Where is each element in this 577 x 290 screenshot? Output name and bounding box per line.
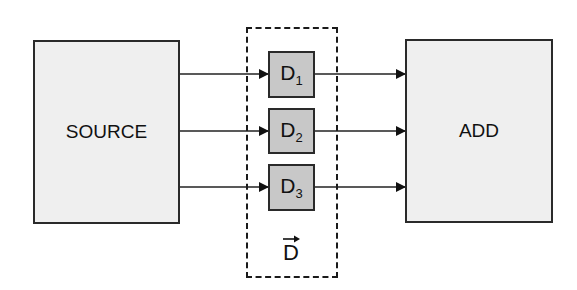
vector-d-label: D	[280, 240, 302, 266]
add-label: ADD	[459, 120, 499, 142]
delay-block-d1: D1	[268, 51, 315, 98]
delay-label: D2	[280, 118, 302, 145]
source-block: SOURCE	[33, 40, 180, 224]
delay-block-d3: D3	[268, 164, 315, 211]
delay-label: D1	[280, 61, 302, 88]
vector-arrow-icon	[280, 234, 302, 244]
add-block: ADD	[405, 39, 553, 223]
delay-label: D3	[280, 174, 302, 201]
delay-block-d2: D2	[268, 108, 315, 154]
source-label: SOURCE	[66, 121, 147, 143]
